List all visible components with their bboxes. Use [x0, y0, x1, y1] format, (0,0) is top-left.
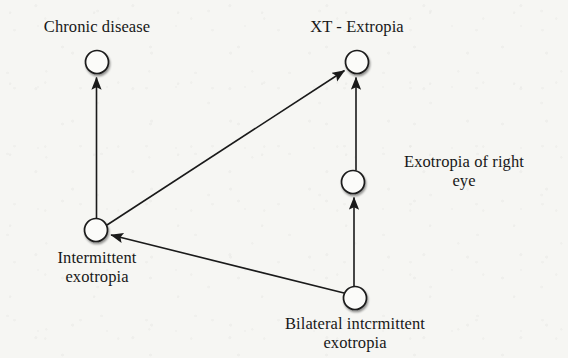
edge-intermittent-to-xt: [107, 71, 345, 226]
diagram-canvas: Chronic disease XT - Extropia Exotropia …: [0, 0, 568, 358]
label-exotropia-right-eye-line1: Exotropia of right: [404, 152, 524, 171]
node-intermittent-exotropia[interactable]: [85, 219, 108, 242]
label-xt-extropia: XT - Extropia: [287, 17, 427, 36]
label-exotropia-right-eye-line2: eye: [452, 171, 475, 190]
node-exotropia-right-eye[interactable]: [342, 171, 365, 194]
label-exotropia-right-eye: Exotropia of right eye: [374, 152, 554, 190]
label-chronic-disease: Chronic disease: [22, 17, 172, 36]
label-intermittent-exotropia-line2: exotropia: [65, 267, 128, 286]
label-intermittent-exotropia-line1: Intermittent: [57, 248, 136, 267]
label-bilateral-line2: exotropia: [323, 333, 386, 352]
node-chronic-disease[interactable]: [86, 51, 109, 74]
node-bilateral-intermittent-exotropia[interactable]: [344, 287, 367, 310]
node-xt-extropia[interactable]: [346, 51, 369, 74]
label-bilateral-line1: Bilateral intcrmittent: [285, 314, 425, 333]
label-intermittent-exotropia: Intermittent exotropia: [26, 248, 168, 286]
label-bilateral-intermittent-exotropia: Bilateral intcrmittent exotropia: [253, 314, 457, 352]
